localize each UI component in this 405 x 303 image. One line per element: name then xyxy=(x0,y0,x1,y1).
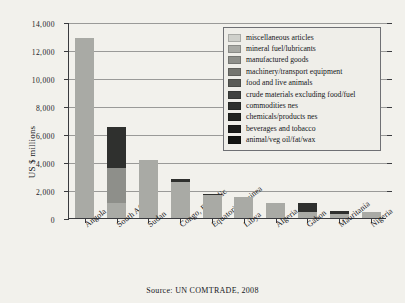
legend-item-label: commodities nes xyxy=(246,102,298,110)
legend-color-swatch xyxy=(228,34,241,42)
right-axis-tick xyxy=(387,135,392,136)
bar-segment xyxy=(298,203,317,212)
right-axis-tick xyxy=(387,51,392,52)
right-axis-tick xyxy=(387,191,392,192)
bar-column[interactable]: Nigeria xyxy=(362,212,381,218)
right-axis-tick xyxy=(387,107,392,108)
legend-item-label: food and live animals xyxy=(246,79,312,87)
legend-item-label: chemicals/products nes xyxy=(246,113,318,121)
bar-column[interactable]: Libya xyxy=(234,197,253,218)
bar-segment xyxy=(107,127,126,168)
right-axis-tick xyxy=(387,79,392,80)
legend-item[interactable]: chemicals/products nes xyxy=(228,112,376,123)
legend-item-label: manufactured goods xyxy=(246,56,309,64)
legend-color-swatch xyxy=(228,102,241,110)
legend-item[interactable]: beverages and tobacco xyxy=(228,123,376,134)
legend-item[interactable]: miscellaneous articles xyxy=(228,32,376,43)
legend-item[interactable]: commodities nes xyxy=(228,100,376,111)
legend-item[interactable]: mineral fuel/lubricants xyxy=(228,43,376,54)
legend-item[interactable]: food and live animals xyxy=(228,78,376,89)
source-caption: Source: UN COMTRADE, 2008 xyxy=(0,286,405,295)
right-axis-tick xyxy=(387,163,392,164)
legend: miscellaneous articlesmineral fuel/lubri… xyxy=(223,27,381,151)
right-axis-tick xyxy=(387,23,392,24)
bar-column[interactable]: Angola xyxy=(75,38,94,218)
y-axis-tick-label: 10,000 xyxy=(32,76,55,85)
bar-segment xyxy=(75,38,94,218)
legend-color-swatch xyxy=(228,68,241,76)
legend-item-label: miscellaneous articles xyxy=(246,34,314,42)
legend-color-swatch xyxy=(228,45,241,53)
bar-segment xyxy=(107,168,126,202)
y-axis-tick-label: 12,000 xyxy=(32,48,55,57)
y-axis-tick-label: 2,000 xyxy=(36,188,55,197)
bar-segment xyxy=(139,160,158,218)
legend-color-swatch xyxy=(228,136,241,144)
legend-item-label: beverages and tobacco xyxy=(246,125,316,133)
bar-column[interactable]: South Africa xyxy=(107,127,126,218)
legend-item-label: animal/veg oil/fat/wax xyxy=(246,136,315,144)
y-axis-tick-label: 6,000 xyxy=(36,132,55,141)
legend-item-label: crude materials excluding food/fuel xyxy=(246,91,356,99)
legend-color-swatch xyxy=(228,113,241,121)
legend-item[interactable]: machinery/transport equipment xyxy=(228,66,376,77)
y-axis-tick-label: 4,000 xyxy=(36,160,55,169)
bar-column[interactable]: Sudan xyxy=(139,160,158,218)
legend-color-swatch xyxy=(228,56,241,64)
legend-color-swatch xyxy=(228,91,241,99)
legend-color-swatch xyxy=(228,79,241,87)
bar-column[interactable]: Mauritania xyxy=(330,211,349,218)
legend-color-swatch xyxy=(228,125,241,133)
legend-item-label: machinery/transport equipment xyxy=(246,68,342,76)
bar-segment xyxy=(171,182,190,218)
legend-item[interactable]: crude materials excluding food/fuel xyxy=(228,89,376,100)
legend-item[interactable]: manufactured goods xyxy=(228,55,376,66)
bar-column[interactable]: Algeria xyxy=(266,203,285,218)
chart-figure: US $ millions 02,0004,0006,0008,00010,00… xyxy=(0,0,405,303)
y-axis-tick-label: 8,000 xyxy=(36,104,55,113)
legend-item-label: mineral fuel/lubricants xyxy=(246,45,316,53)
bar-column[interactable]: Congo, Republic xyxy=(171,179,190,218)
bar-column[interactable]: Equatorial Guinea xyxy=(203,194,222,218)
y-axis-tick-label: 0 xyxy=(51,216,55,225)
legend-item[interactable]: animal/veg oil/fat/wax xyxy=(228,135,376,146)
x-axis-tick-label: Nigeria xyxy=(369,206,394,229)
y-axis-tick: 0 xyxy=(64,219,69,220)
bar-column[interactable]: Gabon xyxy=(298,203,317,218)
y-axis-tick-label: 14,000 xyxy=(32,20,55,29)
